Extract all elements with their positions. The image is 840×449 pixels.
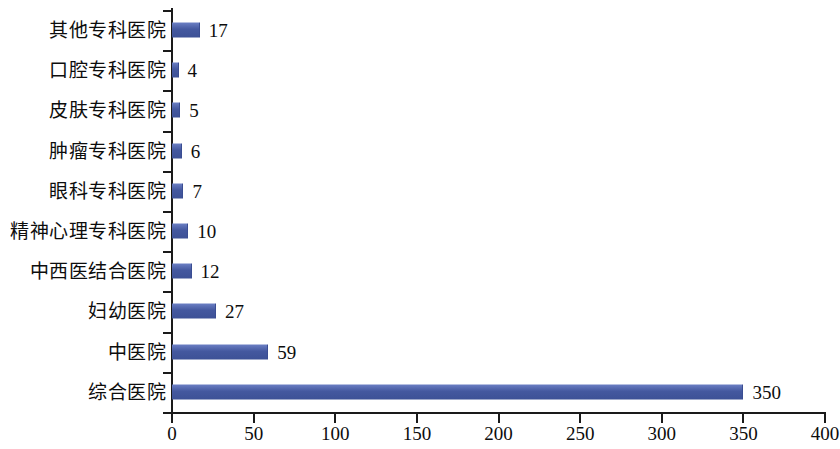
x-axis-tick: [498, 414, 500, 423]
bar-row: 皮肤专科医院5: [0, 90, 840, 130]
bar-value-label: 12: [201, 262, 220, 281]
bar-group: 5: [172, 103, 199, 118]
bar: [172, 344, 268, 359]
x-axis-tick-label: 250: [566, 424, 595, 443]
x-axis-tick-label: 150: [403, 424, 432, 443]
bar-value-label: 7: [192, 181, 202, 200]
bar: [172, 183, 183, 198]
bar-group: 17: [172, 23, 228, 38]
category-label: 妇幼医院: [88, 302, 166, 321]
bar: [172, 23, 200, 38]
bar: [172, 224, 188, 239]
category-label: 口腔专科医院: [49, 61, 166, 80]
y-axis-tick: [163, 50, 172, 52]
y-axis-tick: [163, 291, 172, 293]
x-axis-tick: [824, 414, 826, 423]
bar-group: 59: [172, 344, 296, 359]
x-axis-tick-label: 0: [167, 424, 177, 443]
y-axis-tick: [163, 90, 172, 92]
bar: [172, 143, 182, 158]
bar-row: 妇幼医院27: [0, 291, 840, 331]
bar-value-label: 4: [188, 61, 198, 80]
y-axis-tick: [163, 211, 172, 213]
x-axis-tick-label: 300: [648, 424, 677, 443]
y-axis-tick: [163, 131, 172, 133]
bar-row: 中医院59: [0, 332, 840, 372]
bar-value-label: 17: [209, 21, 228, 40]
x-axis-tick-label: 200: [484, 424, 513, 443]
category-label: 皮肤专科医院: [49, 101, 166, 120]
bar-group: 4: [172, 63, 197, 78]
bar-row: 肿瘤专科医院6: [0, 131, 840, 171]
bar-group: 10: [172, 224, 216, 239]
bar-group: 7: [172, 183, 202, 198]
bar-value-label: 27: [225, 302, 244, 321]
bar-row: 中西医结合医院12: [0, 251, 840, 291]
bar-group: 12: [172, 264, 220, 279]
x-axis-tick-label: 400: [811, 424, 840, 443]
bar: [172, 304, 216, 319]
x-axis-tick: [171, 414, 173, 423]
bar: [172, 384, 743, 399]
category-label: 其他专科医院: [49, 21, 166, 40]
bar-value-label: 10: [197, 222, 216, 241]
category-label: 眼科专科医院: [49, 181, 166, 200]
y-axis-tick: [163, 251, 172, 253]
bar-group: 6: [172, 143, 200, 158]
category-label: 肿瘤专科医院: [49, 141, 166, 160]
x-axis-tick: [742, 414, 744, 423]
y-axis-tick: [163, 10, 172, 12]
bar-value-label: 5: [189, 101, 199, 120]
bar-value-label: 350: [752, 382, 781, 401]
bar-row: 精神心理专科医院10: [0, 211, 840, 251]
bar-rows: 其他专科医院17口腔专科医院4皮肤专科医院5肿瘤专科医院6眼科专科医院7精神心理…: [0, 10, 840, 412]
bar-row: 口腔专科医院4: [0, 50, 840, 90]
bar: [172, 103, 180, 118]
category-label: 中西医结合医院: [30, 262, 167, 281]
x-axis-tick-label: 50: [244, 424, 263, 443]
bar-value-label: 6: [191, 141, 201, 160]
bar-row: 综合医院350: [0, 372, 840, 412]
x-axis-tick: [416, 414, 418, 423]
x-axis-tick: [334, 414, 336, 423]
y-axis-tick: [163, 372, 172, 374]
x-axis-tick-label: 350: [729, 424, 758, 443]
x-axis-tick: [661, 414, 663, 423]
x-axis-tick-label: 100: [321, 424, 350, 443]
category-label: 综合医院: [88, 382, 166, 401]
x-axis-tick: [253, 414, 255, 423]
category-label: 精神心理专科医院: [10, 222, 166, 241]
bar-group: 350: [172, 384, 781, 399]
bar-group: 27: [172, 304, 244, 319]
y-axis-tick: [163, 332, 172, 334]
bar-value-label: 59: [277, 342, 296, 361]
bar-row: 其他专科医院17: [0, 10, 840, 50]
horizontal-bar-chart: 其他专科医院17口腔专科医院4皮肤专科医院5肿瘤专科医院6眼科专科医院7精神心理…: [0, 0, 840, 449]
category-label: 中医院: [108, 342, 167, 361]
y-axis-tick: [163, 171, 172, 173]
bar: [172, 264, 192, 279]
bar: [172, 63, 179, 78]
bar-row: 眼科专科医院7: [0, 171, 840, 211]
x-axis-tick: [579, 414, 581, 423]
